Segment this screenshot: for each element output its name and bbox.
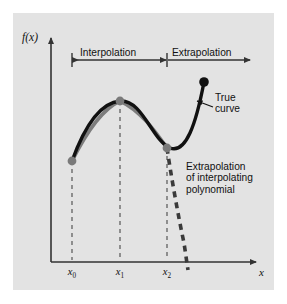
extrapolation-polynomial-line2: of interpolating — [186, 172, 253, 183]
interpolation-region-label: Interpolation — [80, 47, 136, 58]
extrapolation-dashed-curve — [167, 148, 188, 270]
node-marker-x2 — [163, 144, 172, 153]
node-marker-x0 — [68, 157, 77, 166]
x-tick-sub-x2: 2 — [168, 272, 172, 280]
x-tick-sub-x1: 1 — [121, 272, 125, 280]
plot-canvas — [0, 0, 287, 304]
true-curve-endpoint-marker — [199, 77, 209, 87]
axis-lines — [51, 38, 256, 262]
true-curve-annotation: True curve — [215, 92, 240, 115]
x-tick-label-x0: x0 — [68, 266, 76, 280]
node-markers — [68, 77, 209, 165]
extrapolation-region-label: Extrapolation — [172, 47, 231, 58]
y-axis-label: f(x) — [22, 31, 38, 44]
extrapolation-polynomial-line3: polynomial — [186, 184, 253, 195]
true-curve-annotation-line2: curve — [215, 103, 240, 114]
true-curve-annotation-line1: True — [215, 92, 240, 103]
x-tick-sub-x0: 0 — [73, 272, 77, 280]
node-marker-x1 — [116, 97, 125, 106]
x-tick-label-x1: x1 — [116, 266, 124, 280]
true-curve — [72, 82, 204, 161]
extrapolation-polynomial-line1: Extrapolation — [186, 161, 253, 172]
node-droplines — [72, 101, 167, 260]
extrapolation-polynomial-annotation: Extrapolation of interpolating polynomia… — [186, 161, 253, 195]
figure-root: f(x) x Interpolation Extrapolation True … — [0, 0, 287, 304]
x-axis-label: x — [259, 266, 264, 278]
x-tick-label-x2: x2 — [163, 266, 171, 280]
